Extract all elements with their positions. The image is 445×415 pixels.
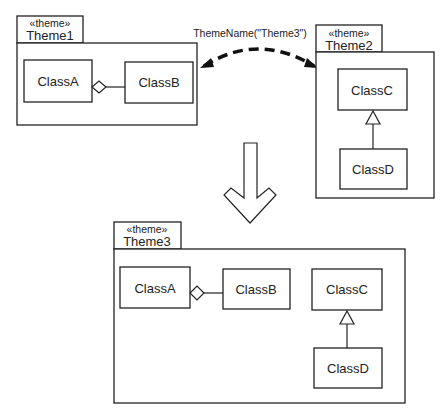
theme1-name: Theme1 — [26, 28, 74, 43]
theme3-package: «theme» Theme3 ClassA ClassB ClassC Clas… — [114, 222, 405, 403]
merge-dashed-arrow — [204, 49, 314, 66]
theme-composition-diagram: «theme» Theme1 ClassA ClassB ThemeName("… — [0, 0, 445, 415]
theme3-name: Theme3 — [123, 234, 171, 249]
theme1-package: «theme» Theme1 ClassA ClassB — [17, 16, 197, 125]
class-name: ClassC — [351, 83, 393, 98]
theme2-name: Theme2 — [325, 38, 373, 53]
class-name: ClassB — [235, 282, 276, 297]
result-down-arrow-icon — [224, 143, 276, 223]
class-name: ClassD — [352, 162, 394, 177]
class-name: ClassA — [134, 281, 176, 296]
class-name: ClassD — [327, 361, 369, 376]
merge-label: ThemeName("Theme3") — [193, 27, 307, 39]
theme2-package: «theme» Theme2 ClassC ClassD — [316, 25, 434, 198]
class-name: ClassA — [37, 74, 79, 89]
class-name: ClassB — [138, 75, 179, 90]
class-name: ClassC — [326, 282, 368, 297]
